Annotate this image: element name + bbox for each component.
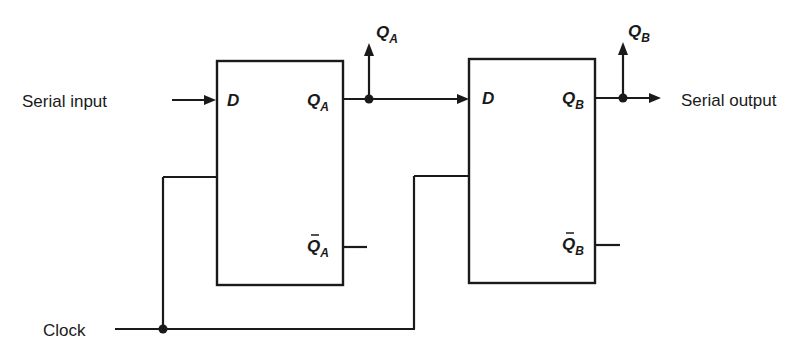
qb-output-wire: QB: [595, 22, 661, 103]
serial-input-label: Serial input: [22, 92, 107, 111]
serial-output-arrow: [649, 93, 661, 103]
qb-tap-arrow: [618, 42, 628, 55]
flipflop-a: D QA QA: [217, 61, 367, 285]
clock-wire: [115, 176, 469, 334]
flipflop-a-qbar-pin: QA: [307, 235, 329, 260]
clock-label: Clock: [43, 321, 86, 340]
qa-tap-label: QA: [376, 23, 398, 46]
flipflop-b: D QB QB: [469, 59, 620, 283]
shift-register-diagram: Serial input Serial output Clock D QA QA…: [0, 0, 810, 364]
serial-input-arrow: [172, 95, 216, 105]
flipflop-a-d-pin: D: [227, 91, 239, 110]
flipflop-b-q-pin: QB: [562, 89, 584, 112]
svg-text:QA: QA: [307, 237, 329, 260]
qa-to-db-wire: QA: [343, 23, 469, 104]
svg-text:QB: QB: [562, 235, 584, 258]
clock-junction-dot: [159, 325, 168, 334]
flipflop-b-d-pin: D: [482, 89, 494, 108]
flipflop-a-q-pin: QA: [307, 91, 329, 114]
qb-tap-label: QB: [628, 22, 650, 45]
qa-tap-arrow: [364, 43, 374, 56]
serial-output-label: Serial output: [681, 91, 777, 110]
flipflop-b-qbar-pin: QB: [562, 233, 584, 258]
